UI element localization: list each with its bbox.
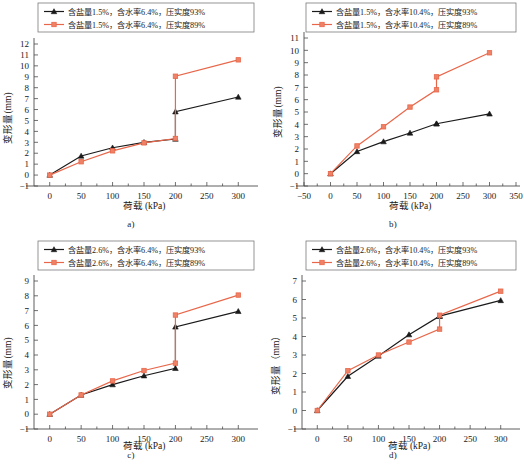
data-point-marker [406,332,412,337]
data-point-marker [236,293,240,297]
series-line-black [50,311,239,414]
x-tick-label: 100 [106,434,120,444]
legend-a: 含盐量1.5%，含水率6.4%，压实度93%含盐量1.5%，含水率6.4%，压实… [38,3,254,32]
x-tick-label: 50 [77,434,87,444]
data-point-marker [434,75,438,79]
legend-d: 含盐量2.6%，含水率10.4%，压实度93%含盐量2.6%，含水率10.4%，… [306,241,516,270]
panel-caption-d: d) [262,450,524,460]
y-tick-label: 6 [293,295,298,305]
series-line-black [331,114,490,174]
data-point-marker [79,393,83,397]
legend-label: 含盐量2.6%，含水率10.4%，压实度89% [336,258,477,268]
data-point-marker [408,105,412,109]
panel-caption-a: a) [0,219,262,229]
legend-b: 含盐量1.5%，含水率10.4%，压实度93%含盐量1.5%，含水率10.4%，… [306,3,516,32]
y-tick-label: 7 [25,94,30,104]
x-tick-label: 200 [430,191,444,201]
x-tick-label: 50 [343,434,353,444]
y-tick-label: 3 [295,132,300,142]
y-tick-label: 0 [25,170,30,180]
chart-panel-a: −10123456789101112050100150200250300变形量(… [0,0,262,233]
y-tick-label: 1 [25,395,30,405]
x-tick-label: 100 [106,191,120,201]
data-point-marker [173,74,177,78]
y-tick-label: 1 [25,159,30,169]
data-point-marker [235,94,241,99]
y-tick-label: 0 [25,409,30,419]
legend-marker [52,22,56,26]
series-line-red [317,291,500,410]
data-point-marker [487,111,493,116]
x-tick-label: 0 [328,191,333,201]
data-point-marker [173,361,177,365]
y-tick-label: 3 [25,365,30,375]
legend-c: 含盐量2.6%，含水率6.4%，压实度93%含盐量2.6%，含水率6.4%，压实… [38,241,254,270]
y-tick-label: 7 [293,276,298,286]
data-point-marker [376,353,380,357]
y-tick-label: 4 [25,350,30,360]
x-tick-label: 100 [372,434,386,444]
y-tick-label: 9 [25,276,30,286]
y-tick-label: 0 [293,406,298,416]
y-tick-label: 7 [295,83,300,93]
y-tick-label: 4 [295,120,300,130]
x-tick-label: 100 [377,191,391,201]
x-tick-label: 200 [169,434,183,444]
y-tick-label: 9 [295,58,300,68]
legend-label: 含盐量1.5%，含水率6.4%，压实度93% [68,7,205,17]
chart-panel-b: −101234567891011−50050100150200250300350… [262,0,524,233]
y-axis-title: 变形量(mm) [2,337,14,388]
y-tick-label: 11 [290,33,299,43]
data-point-marker [142,368,146,372]
y-axis-title: 变形量（mm） [270,331,281,396]
y-tick-label: 11 [20,50,29,60]
plot-area-a: −10123456789101112050100150200250300变形量(… [0,0,262,233]
y-tick-label: 4 [293,332,298,342]
x-tick-label: 250 [456,191,470,201]
data-point-marker [236,58,240,62]
y-tick-label: 2 [293,369,298,379]
y-tick-label: 3 [25,138,30,148]
y-tick-label: 2 [25,380,30,390]
y-tick-label: 1 [293,387,298,397]
x-tick-label: 0 [315,434,320,444]
data-point-marker [499,289,503,293]
x-tick-label: 0 [47,191,52,201]
legend-label: 含盐量2.6%，含水率10.4%，压实度93% [336,245,477,255]
x-tick-label: 300 [483,191,497,201]
y-tick-label: 10 [290,46,300,56]
x-tick-label: −50 [297,191,312,201]
data-point-marker [434,88,438,92]
y-tick-label: 10 [20,61,30,71]
plot-area-b: −101234567891011−50050100150200250300350… [262,0,524,233]
chart-panel-c: −10123456789050100150200250300变形量(mm)荷载 … [0,233,262,466]
legend-label: 含盐量1.5%，含水率10.4%，压实度89% [336,20,477,30]
y-tick-label: −1 [19,181,29,191]
x-tick-label: 50 [353,191,363,201]
y-tick-label: −1 [19,424,29,434]
panel-caption-c: c) [0,450,262,460]
y-tick-label: 9 [25,72,30,82]
chart-panel-d: −101234567050100150200250300变形量（mm）荷载 (k… [262,233,524,466]
figure-four-panel-deformation: −10123456789101112050100150200250300变形量(… [0,0,524,466]
legend-marker [320,260,324,264]
x-tick-label: 250 [463,434,477,444]
series-line-red [331,53,490,174]
data-point-marker [437,327,441,331]
data-point-marker [407,340,411,344]
y-tick-label: 3 [293,350,298,360]
x-tick-label: 300 [494,434,508,444]
y-tick-label: 1 [295,157,300,167]
y-tick-label: 12 [20,39,29,49]
y-tick-label: 2 [295,144,300,154]
data-point-marker [173,136,177,140]
y-tick-label: 8 [295,70,300,80]
data-point-marker [173,313,177,317]
y-tick-label: 0 [295,169,300,179]
plot-area-c: −10123456789050100150200250300变形量(mm)荷载 … [0,233,262,466]
data-point-marker [437,313,441,317]
x-tick-label: 200 [433,434,447,444]
x-tick-label: 0 [47,434,52,444]
x-tick-label: 350 [509,191,523,201]
data-point-marker [315,408,319,412]
